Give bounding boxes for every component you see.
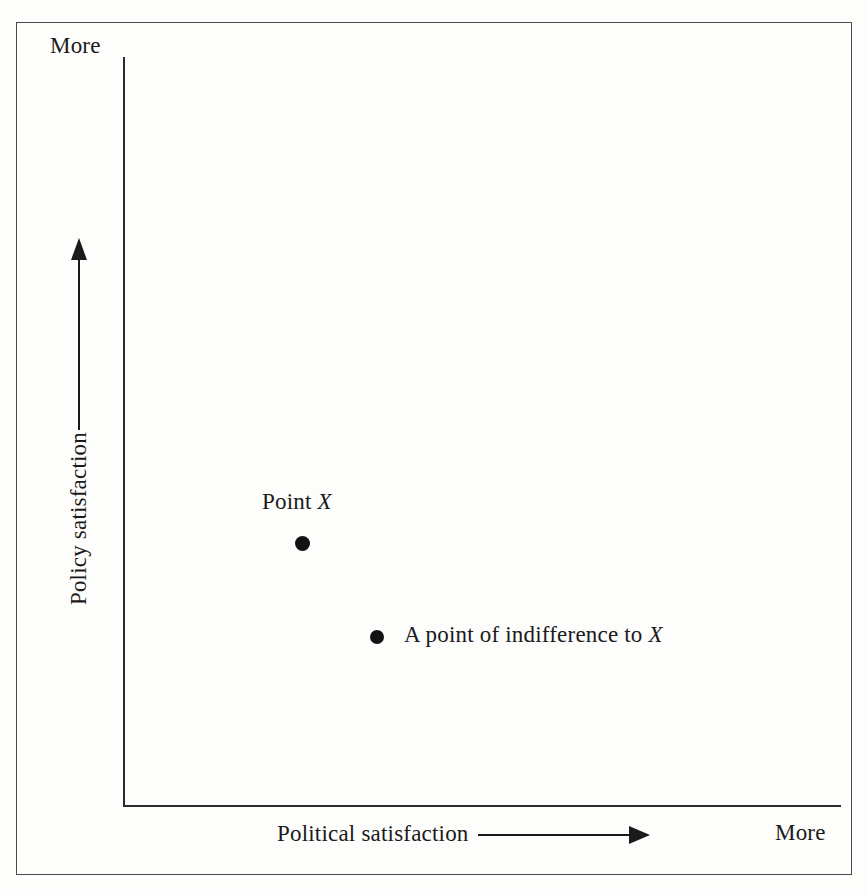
up-arrow-shaft <box>78 250 80 430</box>
point-indifference-label-variable: X <box>649 622 663 647</box>
x-axis-line <box>123 805 841 807</box>
right-arrow-icon <box>629 826 650 844</box>
point-indifference-label: A point of indifference to X <box>404 622 663 648</box>
point-x-label: Point X <box>262 489 332 515</box>
figure-border <box>16 22 852 875</box>
figure-page: More More Policy satisfaction Political … <box>0 0 867 894</box>
point-indifference-marker <box>370 630 384 644</box>
point-x-label-text: Point <box>262 489 318 514</box>
point-x-label-variable: X <box>318 489 332 514</box>
point-x-marker <box>295 536 310 551</box>
x-axis-caption: Political satisfaction <box>277 818 648 850</box>
right-arrow-shaft <box>478 834 648 836</box>
y-axis-line <box>123 57 125 807</box>
point-indifference-label-text: A point of indifference to <box>404 622 649 647</box>
up-arrow-icon <box>71 238 87 260</box>
y-axis-more-label: More <box>50 33 101 59</box>
x-axis-more-label: More <box>775 820 826 846</box>
y-axis-title: Policy satisfaction <box>66 432 92 605</box>
x-axis-title: Political satisfaction <box>277 821 469 847</box>
y-axis-caption: Policy satisfaction <box>78 240 80 640</box>
